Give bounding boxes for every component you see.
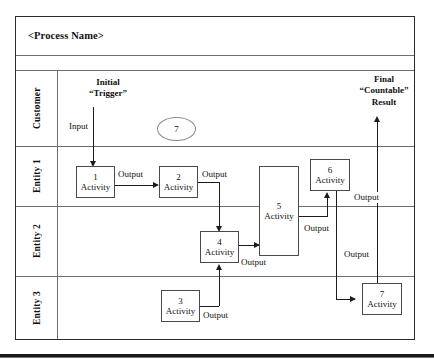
connector-activity6-to-activity7-v (336, 191, 337, 299)
activity-5-number: 5 (277, 201, 282, 211)
output-label-6-right: Output (353, 192, 380, 203)
lane-label-column-divider (57, 70, 58, 339)
activity-6-label: Activity (315, 175, 345, 185)
final-result-line1: Final (374, 74, 394, 84)
activity-box-4[interactable]: 4 Activity (200, 231, 239, 263)
activity-1-number: 1 (93, 172, 98, 182)
initial-trigger-line2: “Trigger” (89, 88, 127, 98)
output-label-1-to-2: Output (117, 169, 144, 180)
final-result-line3: Result (372, 97, 397, 107)
activity-1-label: Activity (81, 182, 111, 192)
activity-7-number: 7 (380, 289, 385, 299)
activity-6-number: 6 (328, 165, 333, 175)
output-label-6-to-7: Output (343, 249, 370, 260)
initial-trigger-line1: Initial (96, 77, 120, 87)
output-label-2-to-4: Output (201, 169, 228, 180)
lane-label-entity2: Entity 2 (16, 206, 57, 276)
process-frame: <Process Name> Customer Entity 1 Entity … (15, 16, 415, 340)
activity-3-number: 3 (178, 296, 183, 306)
connector-activity7-to-final-v (377, 207, 378, 283)
activity-box-7[interactable]: 7 Activity (362, 283, 402, 315)
connector-activity2-out-h (198, 182, 220, 183)
lane-label-customer: Customer (16, 70, 57, 146)
connector-activity1-to-activity2 (115, 185, 154, 186)
final-result-line2: “Countable” (359, 85, 408, 95)
activity-box-5[interactable]: 5 Activity (259, 166, 299, 256)
page-title: <Process Name> (28, 30, 104, 41)
title-divider (16, 55, 414, 56)
connector-activity3-out-h (200, 306, 219, 307)
output-label-5-to-6: Output (303, 223, 330, 234)
activity-2-label: Activity (164, 182, 194, 192)
activity-box-6[interactable]: 6 Activity (310, 159, 350, 191)
arrowhead-to-final-result (374, 116, 380, 122)
arrowhead-activity6-to-activity7 (350, 296, 356, 302)
lane-divider-customer-entity1 (16, 146, 414, 147)
activity-4-label: Activity (205, 247, 235, 257)
lane-label-entity1: Entity 1 (16, 146, 57, 206)
connector-activity5-to-activity6-h (299, 216, 328, 217)
page-bottom-rule (0, 354, 434, 358)
activity-box-3[interactable]: 3 Activity (161, 290, 200, 322)
lane-label-entity3: Entity 3 (16, 276, 57, 339)
input-label: Input (68, 121, 89, 132)
connector-trigger-to-activity1 (93, 107, 94, 165)
activity-5-label: Activity (264, 211, 294, 221)
activity-7-label: Activity (367, 299, 397, 309)
marker-seven-label: 7 (174, 124, 179, 134)
final-result-caption: Final “Countable” Result (336, 74, 432, 108)
activity-box-2[interactable]: 2 Activity (159, 166, 198, 198)
header-strip-divider (16, 70, 414, 71)
connector-activity5-to-activity6-v (327, 197, 328, 216)
activity-3-label: Activity (166, 306, 196, 316)
connector-activity2-to-activity4-v (219, 182, 220, 230)
activity-2-number: 2 (176, 172, 181, 182)
diagram-canvas: <Process Name> Customer Entity 1 Entity … (0, 0, 434, 363)
arrowhead-activity5-to-activity6 (324, 192, 330, 198)
activity-4-number: 4 (217, 237, 222, 247)
output-label-3-to-4: Output (202, 310, 229, 321)
initial-trigger-caption: Initial “Trigger” (66, 77, 150, 100)
marker-seven-ellipse: 7 (157, 117, 196, 141)
connector-activity3-to-activity4-v (219, 269, 220, 306)
activity-box-1[interactable]: 1 Activity (76, 166, 115, 198)
lane-divider-entity2-entity3 (16, 276, 414, 277)
lane-divider-entity1-entity2 (16, 206, 414, 207)
output-label-4-to-5: Output (240, 257, 267, 268)
arrowhead-activity3-to-activity4 (216, 264, 222, 270)
